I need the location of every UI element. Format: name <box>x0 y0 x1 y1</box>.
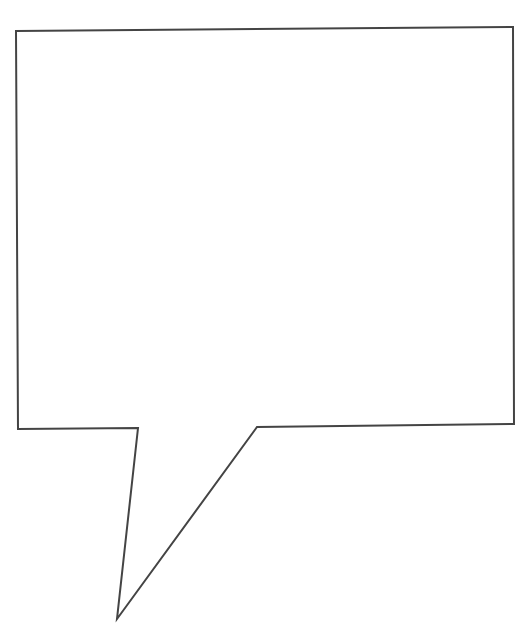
speech-bubble-icon <box>0 0 522 629</box>
diagram-canvas <box>0 0 522 629</box>
speech-bubble-outline <box>16 27 514 619</box>
